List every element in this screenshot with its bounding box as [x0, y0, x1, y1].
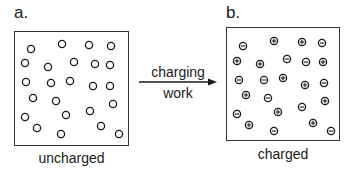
- negative-charge-icon: [320, 79, 327, 86]
- negative-charge-icon: [235, 76, 242, 83]
- positive-charge-icon: [270, 37, 277, 44]
- neutral-particle-icon: [21, 59, 28, 66]
- neutral-particle-icon: [91, 60, 98, 67]
- negative-charge-icon: [318, 39, 325, 46]
- neutral-particle-icon: [70, 58, 77, 65]
- negative-charge-icon: [239, 42, 246, 49]
- positive-charge-icon: [309, 119, 316, 126]
- positive-charge-icon: [319, 58, 326, 65]
- arrow-head-icon: [208, 79, 217, 86]
- neutral-particle-icon: [106, 82, 113, 89]
- arrow: [139, 79, 217, 86]
- neutral-particle-icon: [97, 122, 104, 129]
- positive-charge-icon: [274, 108, 281, 115]
- neutral-particle-icon: [27, 45, 34, 52]
- negative-charge-icon: [298, 103, 305, 110]
- negative-charge-icon: [264, 94, 271, 101]
- neutral-particle-icon: [115, 130, 122, 137]
- positive-charge-icon: [321, 97, 328, 104]
- negative-charge-icon: [260, 76, 267, 83]
- neutral-particle-icon: [47, 79, 54, 86]
- positive-charge-icon: [298, 38, 305, 45]
- neutral-particle-icon: [62, 111, 69, 118]
- neutral-particle-icon: [52, 97, 59, 104]
- neutral-particle-icon: [85, 41, 92, 48]
- neutral-particle-icon: [22, 78, 29, 85]
- negative-charge-icon: [302, 58, 309, 65]
- neutral-particle-icon: [107, 42, 114, 49]
- positive-charge-icon: [245, 121, 252, 128]
- neutral-particle-icon: [44, 63, 51, 70]
- neutral-particle-icon: [58, 40, 65, 47]
- neutral-particle-icon: [33, 124, 40, 131]
- negative-charge-icon: [270, 127, 277, 134]
- uncharged-particles: [21, 40, 122, 137]
- neutral-particle-icon: [86, 107, 93, 114]
- charged-particles: [233, 37, 334, 134]
- negative-charge-icon: [283, 55, 290, 62]
- neutral-particle-icon: [21, 113, 28, 120]
- diagram-canvas: [0, 0, 351, 175]
- neutral-particle-icon: [89, 82, 96, 89]
- negative-charge-icon: [327, 127, 334, 134]
- positive-charge-icon: [233, 57, 240, 64]
- neutral-particle-icon: [29, 94, 36, 101]
- negative-charge-icon: [233, 110, 240, 117]
- positive-charge-icon: [279, 74, 286, 81]
- neutral-particle-icon: [57, 130, 64, 137]
- positive-charge-icon: [256, 60, 263, 67]
- positive-charge-icon: [242, 91, 249, 98]
- positive-charge-icon: [301, 81, 308, 88]
- neutral-particle-icon: [106, 61, 113, 68]
- neutral-particle-icon: [66, 77, 73, 84]
- neutral-particle-icon: [109, 100, 116, 107]
